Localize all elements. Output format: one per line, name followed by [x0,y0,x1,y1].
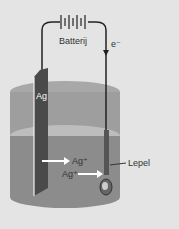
spoon-label: Lepel [128,158,150,168]
silver-electrode [34,68,48,196]
electron-arrow-icon [103,50,109,56]
electron-label: e⁻ [111,39,121,49]
spoon-handle [104,130,109,175]
electrode-label: Ag [36,91,47,101]
battery-label: Batterij [59,36,87,46]
wire-left [42,22,60,70]
battery-icon [61,15,85,29]
ion-label-2: Ag⁺ [62,169,78,179]
ion-label-1: Ag⁺ [72,156,88,166]
electrolysis-diagram: Batterij e⁻ Ag Lepel Ag⁺ Ag⁺ [0,0,179,229]
